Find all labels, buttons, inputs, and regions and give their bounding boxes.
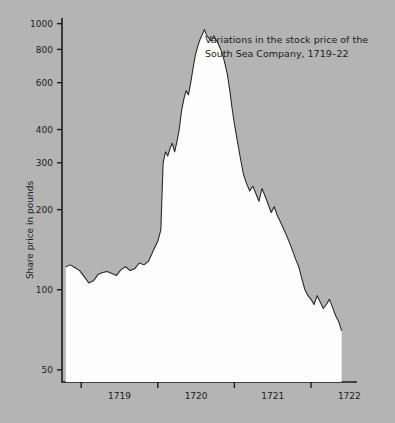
- y-tick-label: 300: [36, 158, 53, 168]
- x-tick-label: 1721: [261, 391, 284, 401]
- y-tick-label: 1000: [30, 19, 53, 29]
- x-axis-ticks: 1719172017211722: [81, 382, 361, 401]
- chart-title-group: Variations in the stock price of the Sou…: [205, 34, 368, 59]
- chart-title-line-1: Variations in the stock price of the: [205, 34, 368, 45]
- y-tick-label: 200: [36, 205, 53, 215]
- series-area-fill: [66, 30, 342, 382]
- x-tick-label: 1720: [185, 391, 208, 401]
- y-axis-title-group: Share price in pounds: [25, 181, 35, 279]
- y-tick-label: 600: [36, 78, 53, 88]
- chart-figure: Share price in pounds 501002003004006008…: [0, 0, 395, 423]
- y-tick-label: 400: [36, 125, 53, 135]
- x-tick-label: 1719: [108, 391, 131, 401]
- chart-title-line-2: South Sea Company, 1719–22: [205, 48, 349, 59]
- y-tick-label: 100: [36, 285, 53, 295]
- y-tick-label: 50: [42, 365, 54, 375]
- y-tick-label: 800: [36, 45, 53, 55]
- x-tick-label: 1722: [338, 391, 361, 401]
- y-axis-title: Share price in pounds: [25, 181, 35, 279]
- stock-price-chart: Share price in pounds 501002003004006008…: [0, 0, 395, 423]
